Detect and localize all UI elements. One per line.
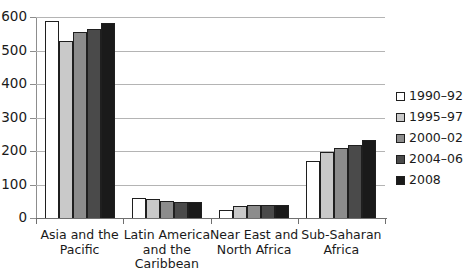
legend-label: 2004–06: [409, 153, 463, 166]
category-label: Asia and thePacific: [30, 228, 129, 257]
legend-item: 1995–97: [396, 107, 463, 128]
bar: [233, 206, 247, 218]
bar: [160, 201, 174, 218]
y-tick-label: 600: [1, 10, 27, 24]
bar-group: [211, 17, 298, 218]
plot-area: 0100200300400500600: [36, 17, 385, 218]
category-label-line: Latin America: [117, 228, 216, 243]
y-tick-label: 100: [1, 178, 27, 192]
y-tick-label: 400: [1, 77, 27, 91]
legend-label: 1990–92: [409, 90, 463, 103]
bar: [261, 205, 275, 218]
legend-item: 2000–02: [396, 128, 463, 149]
x-tick-mark: [36, 218, 37, 224]
bar: [219, 210, 233, 218]
y-tick-label: 300: [1, 111, 27, 125]
legend-swatch: [396, 113, 405, 122]
category-label: Near East andNorth Africa: [205, 228, 304, 257]
legend-swatch: [396, 134, 405, 143]
bar: [174, 202, 188, 218]
category-label-line: and the: [117, 243, 216, 258]
category-label-line: Caribbean: [117, 257, 216, 272]
bar: [101, 23, 115, 218]
bar-chart: 0100200300400500600 Asia and thePacificL…: [0, 0, 471, 276]
legend-item: 2004–06: [396, 149, 463, 170]
category-label-line: North Africa: [205, 243, 304, 258]
bar-group: [298, 17, 385, 218]
x-tick-mark: [298, 218, 299, 224]
bar: [132, 198, 146, 218]
bar-group: [36, 17, 123, 218]
y-tick-label: 200: [1, 144, 27, 158]
legend-swatch: [396, 176, 405, 185]
chart-legend: 1990–921995–972000–022004–062008: [396, 86, 463, 191]
category-label: Sub-SaharanAfrica: [292, 228, 391, 257]
legend-item: 1990–92: [396, 86, 463, 107]
category-label-line: Asia and the: [30, 228, 129, 243]
bar: [45, 21, 59, 218]
bar: [247, 205, 261, 218]
bar: [275, 205, 289, 218]
x-tick-mark: [123, 218, 124, 224]
legend-label: 2000–02: [409, 132, 463, 145]
legend-swatch: [396, 92, 405, 101]
bar: [306, 161, 320, 218]
bar: [334, 148, 348, 218]
category-label-line: Pacific: [30, 243, 129, 258]
category-label: Latin Americaand theCaribbean: [117, 228, 216, 272]
category-label-line: Near East and: [205, 228, 304, 243]
bar-group: [123, 17, 210, 218]
y-tick-label: 500: [1, 44, 27, 58]
legend-swatch: [396, 155, 405, 164]
bar: [146, 199, 160, 218]
category-label-line: Africa: [292, 243, 391, 258]
legend-item: 2008: [396, 170, 463, 191]
category-label-line: Sub-Saharan: [292, 228, 391, 243]
x-tick-mark: [211, 218, 212, 224]
legend-label: 1995–97: [409, 111, 463, 124]
bar: [320, 152, 334, 218]
y-tick-label: 0: [18, 211, 27, 225]
bar: [188, 202, 202, 218]
x-axis-line: [30, 218, 387, 219]
bar: [87, 29, 101, 218]
bar: [348, 145, 362, 218]
bar: [73, 32, 87, 218]
legend-label: 2008: [409, 174, 441, 187]
bar: [362, 140, 376, 218]
bar: [59, 41, 73, 218]
x-tick-mark: [385, 218, 386, 224]
